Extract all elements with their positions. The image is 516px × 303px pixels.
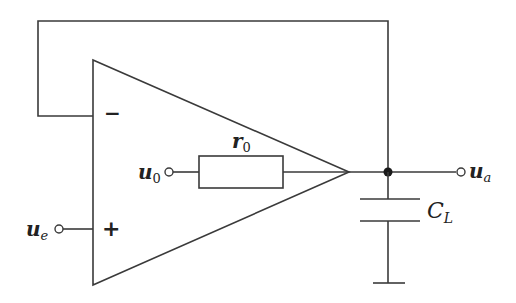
terminal-u0-icon [165, 168, 173, 176]
noninverting-sign: + [102, 216, 120, 241]
terminal-ua-icon [457, 168, 465, 176]
terminal-ue-icon [55, 225, 63, 233]
feedback-wire [38, 21, 388, 172]
inverting-sign: − [104, 101, 121, 125]
circuit-diagram: − + ue u0 r0 ua CL [0, 0, 516, 303]
label-ua: ua [469, 159, 491, 185]
label-u0: u0 [138, 160, 161, 186]
label-r0: r0 [232, 129, 251, 155]
label-cl: CL [427, 198, 453, 226]
label-ue: ue [26, 217, 49, 243]
resistor-r0 [199, 156, 283, 188]
